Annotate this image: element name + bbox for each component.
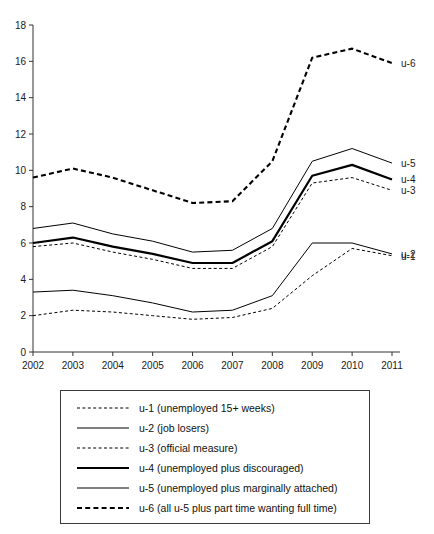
y-tick-label: 2: [20, 310, 26, 321]
series-line-u-5: [33, 149, 392, 253]
legend-item-u-4[interactable]: u-4 (unemployed plus discouraged): [61, 458, 369, 478]
y-tick-label: 14: [15, 92, 27, 103]
x-axis-ticks: 2002200320042005200620072008200920102011: [22, 352, 403, 371]
x-tick-label: 2003: [62, 360, 85, 371]
y-tick-label: 6: [20, 238, 26, 249]
legend-item-u-5[interactable]: u-5 (unemployed plus marginally attached…: [61, 478, 369, 498]
legend-swatch-u-6: [75, 502, 131, 514]
legend: u-1 (unemployed 15+ weeks)u-2 (job loser…: [60, 390, 370, 524]
x-tick-label: 2011: [381, 360, 403, 371]
legend-swatch-u-1: [75, 402, 131, 414]
legend-swatch-u-2: [75, 422, 131, 434]
x-tick-label: 2002: [22, 360, 45, 371]
legend-label-u-5: u-5 (unemployed plus marginally attached…: [131, 482, 337, 494]
x-tick-label: 2009: [301, 360, 324, 371]
series-line-u-4: [33, 165, 392, 263]
legend-label-u-3: u-3 (official measure): [131, 442, 237, 454]
plot-area: 024681012141618 200220032004200520062007…: [0, 0, 434, 380]
series-line-u-2: [33, 243, 392, 312]
legend-label-u-2: u-2 (job losers): [131, 422, 209, 434]
series-end-label-u-6: u-6: [401, 58, 416, 69]
chart-figure: 024681012141618 200220032004200520062007…: [0, 0, 434, 534]
legend-label-u-1: u-1 (unemployed 15+ weeks): [131, 402, 275, 414]
x-tick-label: 2005: [142, 360, 165, 371]
x-tick-label: 2007: [221, 360, 244, 371]
legend-item-u-1[interactable]: u-1 (unemployed 15+ weeks): [61, 398, 369, 418]
legend-swatch-u-3: [75, 442, 131, 454]
y-tick-label: 8: [20, 201, 26, 212]
legend-item-u-2[interactable]: u-2 (job losers): [61, 418, 369, 438]
y-tick-label: 18: [15, 20, 27, 31]
x-tick-label: 2008: [261, 360, 284, 371]
x-tick-label: 2010: [341, 360, 364, 371]
x-tick-label: 2006: [181, 360, 204, 371]
legend-swatch-u-4: [75, 462, 131, 474]
legend-label-u-4: u-4 (unemployed plus discouraged): [131, 462, 304, 474]
series-lines: [33, 49, 392, 320]
legend-swatch-u-5: [75, 482, 131, 494]
y-tick-label: 12: [15, 129, 27, 140]
series-line-u-1: [33, 248, 392, 319]
legend-item-u-6[interactable]: u-6 (all u-5 plus part time wanting full…: [61, 498, 369, 518]
series-line-u-3: [33, 178, 392, 269]
legend-label-u-6: u-6 (all u-5 plus part time wanting full…: [131, 502, 337, 514]
legend-item-u-3[interactable]: u-3 (official measure): [61, 438, 369, 458]
line-chart-svg: 024681012141618 200220032004200520062007…: [0, 0, 434, 380]
series-line-u-6: [33, 49, 392, 203]
series-end-label-u-4: u-4: [401, 174, 416, 185]
y-tick-label: 16: [15, 56, 27, 67]
y-axis-ticks: 024681012141618: [15, 20, 33, 358]
series-end-labels: u-1u-2u-3u-4u-5u-6: [401, 58, 416, 262]
y-tick-label: 4: [20, 274, 26, 285]
y-tick-label: 0: [20, 347, 26, 358]
series-end-label-u-3: u-3: [401, 185, 416, 196]
y-tick-label: 10: [15, 165, 27, 176]
series-end-label-u-5: u-5: [401, 158, 416, 169]
x-tick-label: 2004: [102, 360, 125, 371]
series-end-label-u-2: u-2: [401, 249, 416, 260]
